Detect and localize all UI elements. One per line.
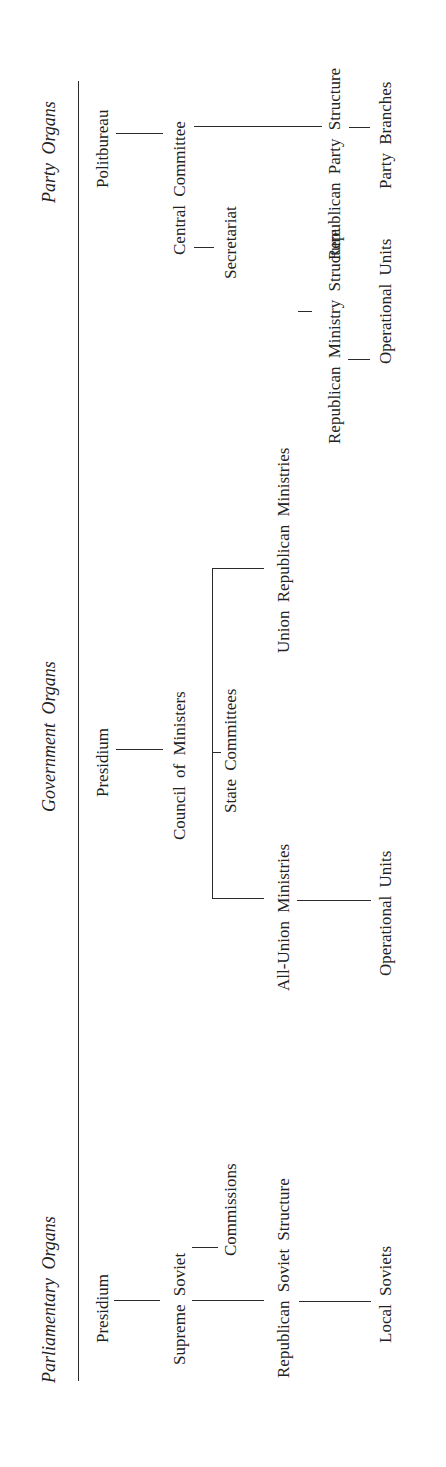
node-all-union-ministries: All-Union Ministries <box>275 844 292 991</box>
edge-presidium-supreme-soviet <box>114 1300 160 1301</box>
edge-council-state-committees <box>213 752 221 753</box>
node-republican-ministry-structure: Republican Ministry Structure <box>326 229 343 444</box>
node-commissions: Commissions <box>222 1163 239 1256</box>
heading-parliamentary-organs: Parliamentary Organs <box>41 1216 58 1383</box>
node-republican-soviet-structure: Republican Soviet Structure <box>275 1178 292 1378</box>
header-rule <box>78 81 79 1381</box>
node-politbureau: Politbureau <box>94 110 111 188</box>
edge-presidium-council <box>116 749 163 750</box>
edge-supreme-soviet-republican <box>192 1300 264 1301</box>
node-union-republican-ministries: Union Republican Ministries <box>275 448 292 653</box>
node-council-of-ministers: Council of Ministers <box>171 691 188 840</box>
edge-central-committee-secretariat <box>194 247 214 248</box>
node-local-soviets: Local Soviets <box>377 1246 394 1343</box>
edge-politbureau-central-committee <box>116 133 163 134</box>
node-supreme-soviet: Supreme Soviet <box>171 1253 188 1365</box>
edge-all-union-operational <box>297 900 371 901</box>
heading-party-organs: Party Organs <box>41 101 58 203</box>
rotated-org-chart-page: Parliamentary Organs Government Organs P… <box>0 0 446 1467</box>
edge-state-committees-bracket <box>212 568 213 899</box>
node-central-committee: Central Committee <box>171 121 188 255</box>
edge-commissions-stub <box>192 1247 193 1248</box>
node-parliamentary-presidium: Presidium <box>94 1274 111 1343</box>
heading-government-organs: Government Organs <box>41 661 58 812</box>
edge-central-committee-republican-party <box>194 126 322 127</box>
node-government-presidium: Presidium <box>94 728 111 797</box>
node-state-committees: State Committees <box>222 689 239 813</box>
edge-bracket-all-union <box>212 898 264 899</box>
edge-republican-local-soviets <box>299 1301 371 1302</box>
node-party-branches: Party Branches <box>377 82 394 189</box>
edge-union-republican-ministry-structure <box>298 311 312 312</box>
edge-ministry-structure-operational <box>348 359 370 360</box>
node-operational-units-republican: Operational Units <box>377 239 394 364</box>
edge-bracket-union-republican <box>212 568 264 569</box>
node-secretariat: Secretariat <box>222 206 239 279</box>
edge-republican-party-branches <box>349 127 370 128</box>
node-republican-party-structure: Republican Party Structure <box>326 68 343 260</box>
node-operational-units-all-union: Operational Units <box>377 851 394 976</box>
edge-supreme-soviet-commissions <box>192 1247 218 1248</box>
